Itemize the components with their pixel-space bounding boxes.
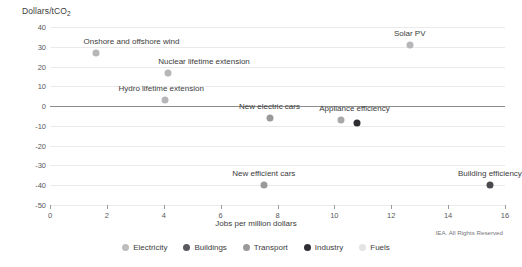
legend-swatch-icon: [183, 244, 190, 251]
legend-item[interactable]: Fuels: [359, 243, 390, 252]
legend-item[interactable]: Buildings: [183, 243, 226, 252]
data-point-label: Nuclear lifetime extension: [158, 57, 250, 66]
gridline: [50, 185, 505, 186]
y-axis-tick-label: 0: [20, 102, 46, 111]
data-point-label: Onshore and offshore wind: [84, 37, 180, 46]
data-point-label: New electric cars: [239, 102, 300, 111]
x-axis-tick-mark: [391, 205, 392, 209]
copyright-note: IEA. All Rights Reserved: [436, 229, 503, 236]
gridline: [50, 47, 505, 48]
y-axis-title: Dollars/tCO2: [22, 6, 71, 16]
y-axis-tick-label: 30: [20, 42, 46, 51]
x-axis-tick-mark: [164, 205, 165, 209]
x-axis-tick-mark: [278, 205, 279, 209]
legend-swatch-icon: [243, 244, 250, 251]
x-axis-tick-mark: [221, 205, 222, 209]
gridline: [50, 126, 505, 127]
data-point[interactable]: [354, 119, 361, 126]
data-point-label: Appliance efficiency: [319, 104, 390, 113]
x-axis-title: Jobs per million dollars: [0, 219, 512, 228]
legend-label: Electricity: [133, 243, 167, 252]
data-point[interactable]: [266, 114, 273, 121]
gridline: [50, 165, 505, 166]
data-point[interactable]: [338, 116, 345, 123]
y-axis-ticks: 403020100-10-20-30-40-50: [16, 27, 46, 205]
legend-label: Fuels: [370, 243, 390, 252]
chart-legend: ElectricityBuildingsTransportIndustryFue…: [0, 243, 512, 252]
y-axis-tick-label: -50: [20, 201, 46, 210]
x-axis-tick-mark: [448, 205, 449, 209]
legend-swatch-icon: [122, 244, 129, 251]
data-point[interactable]: [92, 49, 99, 56]
legend-swatch-icon: [359, 244, 366, 251]
legend-item[interactable]: Transport: [243, 243, 288, 252]
plot-area: Onshore and offshore windNuclear lifetim…: [50, 27, 505, 205]
data-point-label: Building efficiency: [458, 169, 522, 178]
data-point-label: Solar PV: [394, 29, 426, 38]
data-point[interactable]: [260, 182, 267, 189]
gridline: [50, 67, 505, 68]
y-axis-tick-label: 20: [20, 62, 46, 71]
data-point-label: Hydro lifetime extension: [118, 84, 203, 93]
y-axis-tick-label: 10: [20, 82, 46, 91]
y-axis-tick-label: -40: [20, 181, 46, 190]
data-point[interactable]: [406, 41, 413, 48]
legend-label: Industry: [315, 243, 343, 252]
data-point-label: New efficient cars: [232, 169, 295, 178]
gridline: [50, 146, 505, 147]
y-axis-tick-label: -10: [20, 121, 46, 130]
x-axis-tick-mark: [334, 205, 335, 209]
legend-label: Transport: [254, 243, 288, 252]
y-axis-title-subscript: 2: [67, 10, 71, 17]
y-axis-tick-label: 40: [20, 23, 46, 32]
data-point[interactable]: [162, 97, 169, 104]
y-axis-tick-label: -20: [20, 141, 46, 150]
x-axis-tick-mark: [505, 205, 506, 209]
legend-swatch-icon: [304, 244, 311, 251]
legend-label: Buildings: [194, 243, 226, 252]
data-point[interactable]: [486, 182, 493, 189]
legend-item[interactable]: Electricity: [122, 243, 167, 252]
data-point[interactable]: [165, 70, 172, 77]
y-axis-title-text: Dollars/tCO: [22, 6, 67, 16]
y-axis-tick-label: -30: [20, 161, 46, 170]
x-axis-tick-mark: [50, 205, 51, 209]
gridline: [50, 27, 505, 28]
legend-item[interactable]: Industry: [304, 243, 343, 252]
x-axis-tick-mark: [107, 205, 108, 209]
